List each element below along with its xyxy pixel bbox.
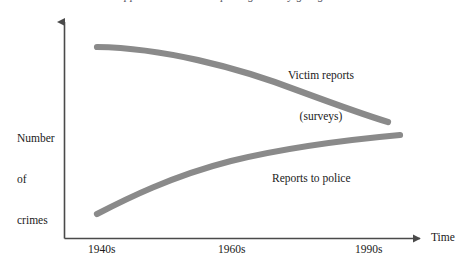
y-axis-label-line-3: crimes (17, 214, 55, 228)
y-axis-label-line-2: of (17, 173, 55, 187)
series-label-victim-line-1: Victim reports (268, 69, 374, 83)
x-tick-label-1940s: 1940s (88, 243, 115, 257)
y-axis-label: Number of crimes (17, 105, 55, 254)
y-axis-label-line-1: Number (17, 132, 55, 146)
x-tick-label-1960s: 1960s (218, 243, 245, 257)
chart-canvas (0, 0, 471, 271)
x-tick-label-1990s: 1990s (355, 243, 382, 257)
series-label-victim-line-2: (surveys) (268, 110, 374, 124)
series-label-victim-reports: Victim reports (surveys) (268, 42, 374, 151)
crime-statistics-figure: upper curve shows reports generally goin… (0, 0, 471, 271)
x-axis-label: Time (431, 231, 455, 245)
series-label-reports-to-police: Reports to police (272, 172, 351, 186)
